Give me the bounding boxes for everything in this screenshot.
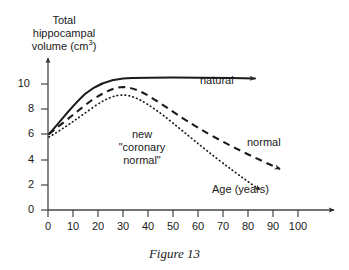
y-axis-title-line-3: volume (cm — [32, 40, 89, 52]
y-tick-label-0: 0 — [12, 203, 34, 216]
x-tick-label-90: 90 — [261, 220, 285, 233]
series-label-normal: normal — [247, 136, 281, 149]
x-tick-label-70: 70 — [211, 220, 235, 233]
y-axis-ticks — [41, 84, 48, 210]
x-tick-label-30: 30 — [111, 220, 135, 233]
x-axis-ticks — [48, 210, 298, 217]
series-label-natural: natural — [200, 74, 234, 87]
y-tick-label-6: 6 — [12, 127, 34, 140]
x-tick-label-20: 20 — [86, 220, 110, 233]
coronary-label-line-3: normal" — [123, 154, 161, 166]
coronary-label-line-1: new — [132, 128, 152, 140]
x-tick-label-60: 60 — [186, 220, 210, 233]
y-axis-title: Totalhippocampalvolume (cm3) — [0, 14, 128, 53]
x-tick-label-50: 50 — [161, 220, 185, 233]
coronary-label-line-2: "coronary — [119, 141, 166, 153]
x-tick-label-100: 100 — [286, 220, 310, 233]
y-axis-title-line-1: Total — [52, 14, 75, 26]
y-tick-label-8: 8 — [12, 102, 34, 115]
figure-caption: Figure 13 — [0, 246, 349, 262]
y-axis-title-line-2: hippocampal — [33, 27, 95, 39]
x-tick-label-80: 80 — [236, 220, 260, 233]
x-tick-label-40: 40 — [136, 220, 160, 233]
x-tick-label-0: 0 — [36, 220, 60, 233]
y-tick-label-10: 10 — [8, 77, 30, 90]
y-tick-label-2: 2 — [12, 178, 34, 191]
y-tick-label-4: 4 — [12, 153, 34, 166]
x-axis-title: Age (years) — [212, 183, 269, 196]
series-label-coronary-normal: new"coronarynormal" — [100, 128, 184, 167]
axis-lines — [48, 58, 334, 210]
x-tick-label-10: 10 — [61, 220, 85, 233]
figure-13-container: Totalhippocampalvolume (cm3) 0 2 4 6 8 1… — [0, 0, 349, 270]
y-axis-title-line-4: ) — [93, 40, 97, 52]
